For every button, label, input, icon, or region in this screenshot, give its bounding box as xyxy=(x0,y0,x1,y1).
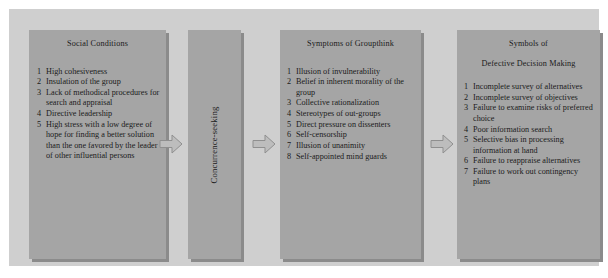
list-item-number: 4 xyxy=(464,125,473,135)
list-item-number: 1 xyxy=(464,82,473,92)
list-item-text: Failure to examine risks of preferred ch… xyxy=(473,103,597,124)
arrow-right-icon xyxy=(251,131,277,157)
list-item: 3 Collective rationalization xyxy=(287,98,418,108)
list-item-number: 3 xyxy=(464,103,473,113)
list-item-number: 3 xyxy=(287,98,296,108)
list-item: 6 Failure to reappraise alternatives xyxy=(464,156,597,166)
list-item: 2 Insulation of the group xyxy=(37,77,162,87)
list-item: 3 Failure to examine risks of preferred … xyxy=(464,103,597,124)
list-item: 2 Belief in inherent morality of the gro… xyxy=(287,77,418,98)
list-item: 1 High cohesiveness xyxy=(37,67,162,77)
box-symptoms-of-groupthink: Symptoms of Groupthink 1 Illusion of inv… xyxy=(280,30,421,259)
list-item: 2 Incomplete survey of objectives xyxy=(464,93,597,103)
social-conditions-list: 1 High cohesiveness 2 Insulation of the … xyxy=(29,67,166,162)
list-item-text: Selective bias in processing information… xyxy=(473,135,597,156)
list-item-text: Stereotypes of out-groups xyxy=(296,109,418,119)
list-item-number: 1 xyxy=(37,67,46,77)
list-item-text: Illusion of unanimity xyxy=(296,141,418,151)
list-item: 5 High stress with a low degree of hope … xyxy=(37,120,162,162)
list-item-number: 8 xyxy=(287,152,296,162)
list-item: 8 Self-appointed mind guards xyxy=(287,152,418,162)
diagram-canvas: Social Conditions 1 High cohesiveness 2 … xyxy=(9,9,599,266)
list-item-text: Poor information search xyxy=(473,125,597,135)
box-defective-title-line2: Defective Decision Making xyxy=(457,59,600,70)
list-item-number: 7 xyxy=(287,141,296,151)
list-item-text: Failure to work out contingency plans xyxy=(473,167,597,188)
list-item-number: 6 xyxy=(287,130,296,140)
list-item-text: Direct pressure on dissenters xyxy=(296,120,418,130)
symptoms-list: 1 Illusion of invulnerability 2 Belief i… xyxy=(280,67,421,163)
list-item-number: 1 xyxy=(287,67,296,77)
list-item: 6 Self-censorship xyxy=(287,130,418,140)
list-item-number: 2 xyxy=(464,93,473,103)
list-item-number: 4 xyxy=(287,109,296,119)
list-item: 5 Selective bias in processing informati… xyxy=(464,135,597,156)
list-item: 7 Illusion of unanimity xyxy=(287,141,418,151)
box-defective-title-line1: Symbols of xyxy=(457,39,600,50)
box-concurrence-seeking: Concurrence-seeking xyxy=(188,30,241,259)
list-item: 3 Lack of methodical procedures for sear… xyxy=(37,88,162,109)
list-item-number: 5 xyxy=(37,120,46,130)
list-item: 4 Directive leadership xyxy=(37,109,162,119)
concurrence-label-wrapper: Concurrence-seeking xyxy=(188,30,241,259)
list-item-number: 5 xyxy=(464,135,473,145)
list-item-text: High cohesiveness xyxy=(46,67,162,77)
list-item-number: 5 xyxy=(287,120,296,130)
list-item-number: 6 xyxy=(464,156,473,166)
list-item-text: Self-censorship xyxy=(296,130,418,140)
list-item: 1 Illusion of invulnerability xyxy=(287,67,418,77)
arrow-right-icon xyxy=(429,131,455,157)
list-item-text: High stress with a low degree of hope fo… xyxy=(46,120,162,162)
list-item: 7 Failure to work out contingency plans xyxy=(464,167,597,188)
diagram-page: Social Conditions 1 High cohesiveness 2 … xyxy=(0,0,608,278)
list-item: 1 Incomplete survey of alternatives xyxy=(464,82,597,92)
list-item-number: 2 xyxy=(287,77,296,87)
list-item-number: 4 xyxy=(37,109,46,119)
list-item-text: Collective rationalization xyxy=(296,98,418,108)
box-defective-decision-making: Symbols of Defective Decision Making 1 I… xyxy=(457,30,600,259)
list-item: 5 Direct pressure on dissenters xyxy=(287,120,418,130)
list-item-text: Illusion of invulnerability xyxy=(296,67,418,77)
list-item-text: Incomplete survey of objectives xyxy=(473,93,597,103)
list-item-number: 3 xyxy=(37,88,46,98)
list-item-text: Directive leadership xyxy=(46,109,162,119)
box-symptoms-title: Symptoms of Groupthink xyxy=(280,39,421,50)
defective-decision-list: 1 Incomplete survey of alternatives 2 In… xyxy=(457,82,600,188)
list-item-text: Failure to reappraise alternatives xyxy=(473,156,597,166)
box-social-conditions-title: Social Conditions xyxy=(29,39,166,50)
list-item-text: Incomplete survey of alternatives xyxy=(473,82,597,92)
list-item-number: 7 xyxy=(464,167,473,177)
box-social-conditions: Social Conditions 1 High cohesiveness 2 … xyxy=(29,30,166,259)
arrow-right-icon xyxy=(158,131,184,157)
list-item-text: Self-appointed mind guards xyxy=(296,152,418,162)
list-item-text: Belief in inherent morality of the group xyxy=(296,77,418,98)
list-item-text: Lack of methodical procedures for search… xyxy=(46,88,162,109)
concurrence-seeking-label: Concurrence-seeking xyxy=(210,106,220,183)
list-item: 4 Poor information search xyxy=(464,125,597,135)
list-item-number: 2 xyxy=(37,77,46,87)
list-item: 4 Stereotypes of out-groups xyxy=(287,109,418,119)
list-item-text: Insulation of the group xyxy=(46,77,162,87)
